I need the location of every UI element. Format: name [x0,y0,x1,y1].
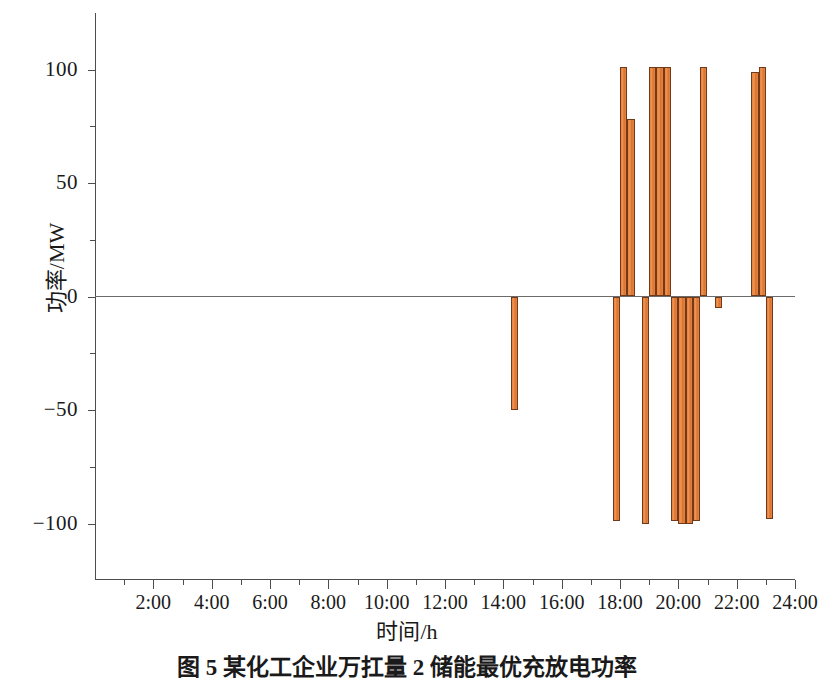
x-axis-tick [212,580,213,589]
bar [759,67,766,296]
bar [766,297,773,519]
bar [678,297,685,524]
bar [664,67,671,296]
bar [671,297,678,522]
y-axis-minor-tick [90,467,96,468]
y-axis-minor-tick [90,240,96,241]
bar [686,297,693,524]
y-axis-tick-label: −100 [16,513,78,534]
x-axis-minor-tick [708,580,709,585]
bar [751,72,758,297]
x-axis-tick [737,580,738,589]
bar [627,119,634,296]
x-axis-minor-tick [416,580,417,585]
y-axis-tick [88,524,96,525]
plot-area [95,13,795,580]
x-axis-minor-tick [358,580,359,585]
bar [620,67,627,296]
x-axis-tick [153,580,154,589]
x-axis-minor-tick [299,580,300,585]
y-axis-tick [88,183,96,184]
x-axis-tick [620,580,621,589]
bar [613,297,620,522]
y-axis-tick-label: −50 [16,399,78,420]
y-axis-title: 功率/MW [45,193,69,343]
bar [656,67,663,296]
x-axis-tick [795,580,796,589]
x-axis-tick [328,580,329,589]
y-axis-tick-label: 50 [16,172,78,193]
bar [511,297,518,411]
bar [649,67,656,296]
x-axis-tick [270,580,271,589]
x-axis-tick [503,580,504,589]
x-axis-minor-tick [183,580,184,585]
y-axis-tick [88,297,96,298]
x-axis-minor-tick [474,580,475,585]
x-axis-tick [387,580,388,589]
x-axis-tick [445,580,446,589]
x-axis-minor-tick [591,580,592,585]
y-axis-minor-tick [90,353,96,354]
x-axis-title: 时间/h [0,620,814,644]
figure-caption: 图 5 某化工企业万扛量 2 储能最优充放电功率 [0,655,814,680]
bar [715,297,722,308]
x-axis-minor-tick [241,580,242,585]
x-axis-tick-label: 24:00 [760,592,822,612]
y-axis-tick [88,410,96,411]
x-axis-minor-tick [124,580,125,585]
x-axis-minor-tick [766,580,767,585]
bar [642,297,649,524]
x-axis-minor-tick [649,580,650,585]
x-axis-tick [562,580,563,589]
y-axis-minor-tick [90,126,96,127]
y-axis-tick-label: 100 [16,59,78,80]
y-axis-tick [88,70,96,71]
x-axis-tick [678,580,679,589]
bar [693,297,700,522]
x-axis-minor-tick [533,580,534,585]
bar [700,67,707,296]
